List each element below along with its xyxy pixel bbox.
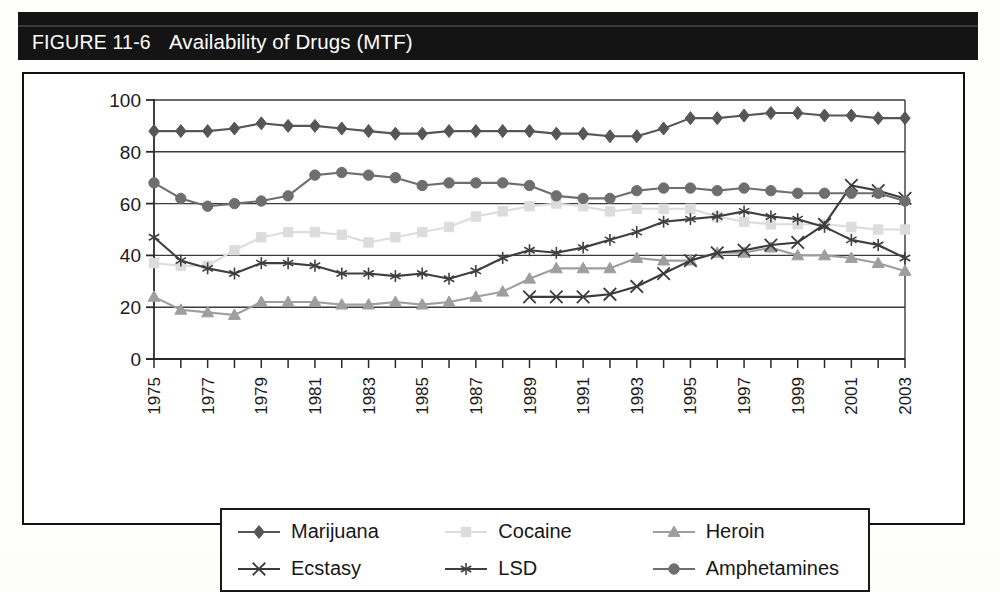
- svg-text:0: 0: [130, 349, 141, 370]
- legend-marker-heroin: [651, 522, 697, 542]
- svg-text:1979: 1979: [252, 377, 271, 415]
- line-chart: 0204060801001975197719791981198319851987…: [24, 74, 963, 523]
- svg-text:1993: 1993: [628, 377, 647, 415]
- legend-label-marijuana: Marijuana: [291, 520, 379, 543]
- svg-text:100: 100: [109, 90, 141, 111]
- svg-text:1999: 1999: [789, 377, 808, 415]
- svg-text:1975: 1975: [145, 377, 164, 415]
- chart-frame: 0204060801001975197719791981198319851987…: [22, 72, 965, 525]
- legend-marker-lsd: [443, 559, 489, 579]
- svg-text:20: 20: [120, 297, 141, 318]
- legend-marker-marijuana: [236, 522, 282, 542]
- svg-text:1997: 1997: [735, 377, 754, 415]
- figure-title-inner: FIGURE 11-6 Availability of Drugs (MTF): [32, 26, 413, 58]
- legend-item-heroin: Heroin: [651, 520, 858, 543]
- legend-label-heroin: Heroin: [706, 520, 765, 543]
- svg-text:1995: 1995: [681, 377, 700, 415]
- svg-text:1983: 1983: [360, 377, 379, 415]
- figure-title: Availability of Drugs (MTF): [169, 30, 413, 54]
- svg-text:1981: 1981: [306, 377, 325, 415]
- svg-text:80: 80: [120, 142, 141, 163]
- legend-marker-amphetamines: [651, 559, 697, 579]
- svg-text:1987: 1987: [467, 377, 486, 415]
- legend-item-amphetamines: Amphetamines: [651, 557, 858, 580]
- legend-item-cocaine: Cocaine: [443, 520, 650, 543]
- svg-text:1991: 1991: [574, 377, 593, 415]
- series-marijuana: [149, 106, 910, 142]
- legend-item-lsd: LSD: [443, 557, 650, 580]
- svg-text:60: 60: [120, 194, 141, 215]
- legend-label-lsd: LSD: [498, 557, 537, 580]
- legend-label-ecstasy: Ecstasy: [291, 557, 361, 580]
- legend-label-amphetamines: Amphetamines: [706, 557, 839, 580]
- svg-text:40: 40: [120, 245, 141, 266]
- svg-text:1985: 1985: [413, 377, 432, 415]
- svg-text:1977: 1977: [199, 377, 218, 415]
- figure-number: FIGURE 11-6: [32, 31, 151, 54]
- legend-item-marijuana: Marijuana: [236, 520, 443, 543]
- legend-marker-cocaine: [443, 522, 489, 542]
- svg-text:1989: 1989: [521, 377, 540, 415]
- legend-marker-ecstasy: [236, 559, 282, 579]
- legend-label-cocaine: Cocaine: [498, 520, 571, 543]
- figure-title-band: FIGURE 11-6 Availability of Drugs (MTF): [18, 12, 978, 60]
- svg-text:2003: 2003: [896, 377, 915, 415]
- legend-item-ecstasy: Ecstasy: [236, 557, 443, 580]
- svg-text:2001: 2001: [842, 377, 861, 415]
- plot-area: 0204060801001975197719791981198319851987…: [24, 74, 963, 523]
- chart-legend: Marijuana Cocaine Heroin Ecstasy LSD Amp…: [220, 508, 870, 592]
